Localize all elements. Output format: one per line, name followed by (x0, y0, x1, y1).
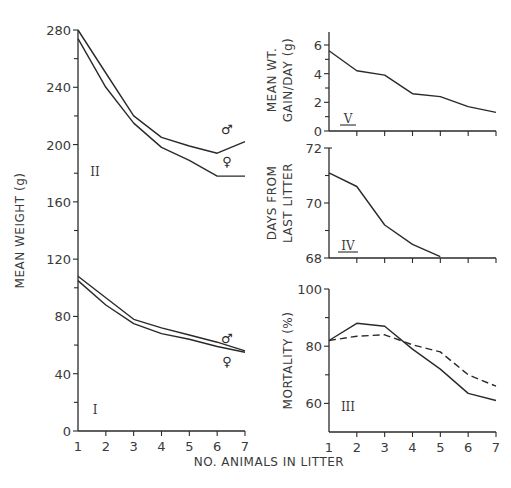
x-tick-label: 1 (325, 440, 333, 455)
panel-weight: 123456704080120160200240280MEAN WEIGHT (… (13, 23, 249, 454)
x-tick-label: 4 (408, 440, 416, 455)
y-tick-label: 0 (314, 124, 322, 139)
y-tick-label: 4 (314, 67, 322, 82)
x-tick-label: 7 (241, 439, 249, 454)
y-tick-label: 70 (305, 196, 322, 211)
x-tick-label: 5 (436, 440, 444, 455)
series-I-male (78, 276, 245, 351)
x-tick-label: 1 (74, 439, 82, 454)
y-axis-label-line2: LAST LITTER (281, 163, 295, 243)
female-symbol: ♀ (222, 154, 232, 169)
series-mortality-dashed (329, 335, 496, 386)
y-axis-label-line2: GAIN/DAY (g) (281, 38, 295, 123)
x-axis-label: NO. ANIMALS IN LITTER (194, 455, 344, 469)
subplot-label-IV: IV (341, 239, 355, 253)
y-tick-label: 120 (46, 252, 71, 267)
panel-mortality: 12345676080100MORTALITY (%)III (281, 282, 500, 455)
series-II-male (78, 30, 245, 153)
y-tick-label: 80 (54, 309, 71, 324)
female-symbol: ♀ (222, 354, 232, 369)
series-gain (329, 51, 496, 113)
y-tick-label: 160 (46, 195, 71, 210)
y-tick-label: 100 (297, 282, 322, 297)
series-II-female (78, 39, 245, 177)
y-axis-label-line1: MEAN WT. (265, 48, 279, 113)
x-tick-label: 2 (353, 440, 361, 455)
male-symbol: ♂ (221, 331, 233, 346)
y-tick-label: 72 (305, 141, 322, 156)
subplot-label-II: II (90, 165, 100, 179)
y-axis-label: MEAN WEIGHT (g) (13, 173, 27, 289)
subplot-label-V: V (343, 112, 353, 126)
x-tick-label: 7 (492, 440, 500, 455)
y-tick-label: 280 (46, 23, 71, 38)
y-tick-label: 0 (63, 424, 71, 439)
y-axis-label: MORTALITY (%) (281, 312, 295, 410)
y-tick-label: 6 (314, 38, 322, 53)
y-axis-label-line1: DAYS FROM (265, 166, 279, 241)
x-tick-label: 5 (185, 439, 193, 454)
x-tick-label: 3 (381, 440, 389, 455)
y-tick-label: 60 (305, 396, 322, 411)
y-tick-label: 68 (305, 251, 322, 266)
subplot-label-I: I (93, 403, 98, 417)
male-symbol: ♂ (221, 122, 233, 137)
x-tick-label: 2 (102, 439, 110, 454)
x-tick-label: 3 (130, 439, 138, 454)
x-tick-label: 4 (157, 439, 165, 454)
x-tick-label: 6 (213, 439, 221, 454)
y-tick-label: 80 (305, 339, 322, 354)
y-tick-label: 200 (46, 138, 71, 153)
y-tick-label: 40 (54, 367, 71, 382)
panel-gain: 0246MEAN WT.GAIN/DAY (g)V (265, 32, 496, 139)
panel-days: 687072DAYS FROMLAST LITTERIV (265, 141, 496, 266)
figure: 123456704080120160200240280MEAN WEIGHT (… (0, 0, 511, 488)
y-tick-label: 240 (46, 80, 71, 95)
series-I-female (78, 281, 245, 353)
x-tick-label: 6 (464, 440, 472, 455)
series-mortality-solid (329, 323, 496, 400)
subplot-label-III: III (341, 400, 355, 414)
y-tick-label: 2 (314, 95, 322, 110)
